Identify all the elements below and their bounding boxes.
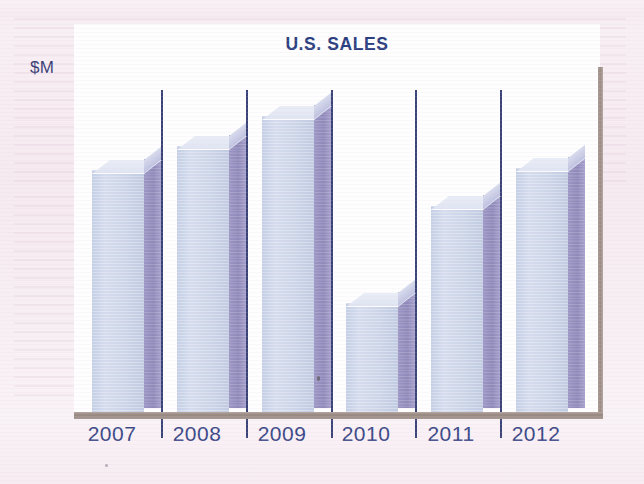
- scan-artifact-speck: [317, 376, 320, 381]
- bar-2007-front-face: [92, 170, 145, 412]
- y-axis-unit-label: $M: [30, 58, 54, 78]
- category-separator-line-5: [500, 90, 502, 438]
- chart-title: U.S. SALES: [74, 34, 600, 55]
- x-axis-label-2012: 2012: [502, 422, 570, 446]
- category-separator-line-1: [161, 90, 163, 438]
- scan-artifact-speck-bottom: [105, 464, 108, 467]
- bar-2012-side-face: [568, 157, 585, 408]
- bar-2007[interactable]: [92, 170, 144, 412]
- bar-2009-side-face: [314, 105, 331, 408]
- plot-right-border: [598, 67, 603, 419]
- bar-2007-side-face: [144, 159, 161, 408]
- x-axis-label-2007: 2007: [78, 422, 146, 446]
- chart-plot-area: U.S. SALES: [74, 24, 600, 419]
- bar-2011-front-face: [431, 206, 484, 412]
- bar-2011-side-face: [483, 195, 500, 408]
- bar-2010-side-face: [398, 292, 415, 408]
- page-root: U.S. SALES: [0, 0, 644, 484]
- bar-2008-side-face: [229, 135, 246, 408]
- bar-2008-front-face: [177, 146, 230, 412]
- x-axis-label-2008: 2008: [163, 422, 231, 446]
- bar-2010[interactable]: [346, 303, 398, 412]
- category-separator-line-4: [415, 90, 417, 438]
- x-axis-label-2011: 2011: [417, 422, 485, 446]
- bar-2012[interactable]: [516, 168, 568, 412]
- x-axis-label-2010: 2010: [332, 422, 400, 446]
- category-separator-line-2: [246, 90, 248, 438]
- bar-2008[interactable]: [177, 146, 229, 412]
- bar-2012-front-face: [516, 168, 569, 412]
- bar-2009[interactable]: [262, 116, 314, 412]
- bar-2011[interactable]: [431, 206, 483, 412]
- plot-baseline-axis: [74, 412, 603, 419]
- paper-bleed-texture-lower: [14, 196, 74, 396]
- x-axis-label-2009: 2009: [248, 422, 316, 446]
- bar-2010-front-face: [346, 303, 399, 412]
- bar-2009-front-face: [262, 116, 315, 412]
- category-separator-line-3: [331, 90, 333, 438]
